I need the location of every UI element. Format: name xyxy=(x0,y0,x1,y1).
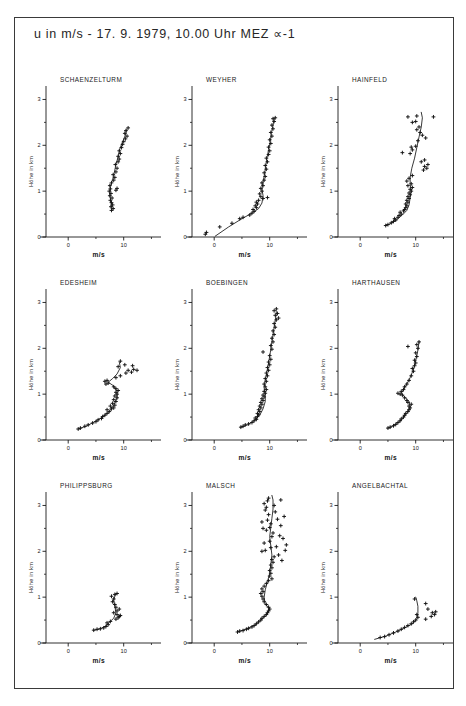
panel-philippsburg: 0123010PHILIPPSBURGHöhe in kmm/s xyxy=(16,480,162,680)
svg-text:1: 1 xyxy=(183,594,186,600)
svg-text:2: 2 xyxy=(37,345,40,351)
svg-text:10: 10 xyxy=(267,648,273,654)
y-axis-label: Höhe in km xyxy=(320,562,326,593)
x-axis-label: m/s xyxy=(385,657,398,664)
plot-area: 0123010 xyxy=(162,74,308,274)
data-points xyxy=(92,592,122,632)
y-axis-label: Höhe in km xyxy=(174,359,180,390)
svg-text:0: 0 xyxy=(329,234,332,240)
svg-text:0: 0 xyxy=(67,242,70,248)
profile-fit-line xyxy=(375,597,418,639)
panel-weyher: 0123010WEYHERHöhe in kmm/s xyxy=(162,74,308,274)
svg-text:3: 3 xyxy=(37,299,40,305)
svg-text:10: 10 xyxy=(121,445,127,451)
svg-text:10: 10 xyxy=(121,648,127,654)
plot-area: 0123010 xyxy=(308,480,454,680)
svg-text:10: 10 xyxy=(121,242,127,248)
svg-text:0: 0 xyxy=(329,640,332,646)
profile-fit-line xyxy=(238,495,274,632)
data-points xyxy=(76,359,139,431)
svg-text:1: 1 xyxy=(183,391,186,397)
y-axis-label: Höhe in km xyxy=(174,562,180,593)
data-points xyxy=(236,496,289,634)
svg-text:10: 10 xyxy=(413,242,419,248)
svg-text:10: 10 xyxy=(267,242,273,248)
svg-text:0: 0 xyxy=(213,445,216,451)
y-axis-label: Höhe in km xyxy=(28,562,34,593)
panel-grid: 0123010SCHAENZELTURMHöhe in kmm/s0123010… xyxy=(16,74,452,684)
y-axis-label: Höhe in km xyxy=(28,156,34,187)
svg-text:0: 0 xyxy=(37,437,40,443)
svg-text:0: 0 xyxy=(359,242,362,248)
panel-hainfeld: 0123010HAINFELDHöhe in kmm/s xyxy=(308,74,454,274)
svg-text:0: 0 xyxy=(37,640,40,646)
svg-text:3: 3 xyxy=(183,502,186,508)
x-axis-label: m/s xyxy=(93,454,106,461)
svg-text:10: 10 xyxy=(413,445,419,451)
svg-text:3: 3 xyxy=(37,96,40,102)
svg-text:10: 10 xyxy=(267,445,273,451)
svg-text:0: 0 xyxy=(359,445,362,451)
svg-text:2: 2 xyxy=(329,142,332,148)
panel-edesheim: 0123010EDESHEIMHöhe in kmm/s xyxy=(16,277,162,477)
panel-boebingen: 0123010BOEBINGENHöhe in kmm/s xyxy=(162,277,308,477)
x-axis-label: m/s xyxy=(385,251,398,258)
svg-text:2: 2 xyxy=(329,548,332,554)
panel-angelbachtal: 0123010ANGELBACHTALHöhe in kmm/s xyxy=(308,480,454,680)
figure-title: u in m/s - 17. 9. 1979, 10.00 Uhr MEZ ∝-… xyxy=(34,26,295,41)
plot-area: 0123010 xyxy=(16,277,162,477)
panel-title: BOEBINGEN xyxy=(206,279,248,286)
svg-text:0: 0 xyxy=(213,648,216,654)
y-axis-label: Höhe in km xyxy=(28,359,34,390)
svg-text:0: 0 xyxy=(183,437,186,443)
data-points xyxy=(384,114,436,227)
panel-title: WEYHER xyxy=(206,76,237,83)
data-points xyxy=(386,340,421,430)
x-axis-label: m/s xyxy=(93,251,106,258)
panel-malsch: 0123010MALSCHHöhe in kmm/s xyxy=(162,480,308,680)
panel-title: MALSCH xyxy=(206,482,235,489)
svg-text:0: 0 xyxy=(329,437,332,443)
svg-text:2: 2 xyxy=(183,548,186,554)
plot-area: 0123010 xyxy=(308,277,454,477)
data-points xyxy=(203,116,277,236)
svg-text:10: 10 xyxy=(413,648,419,654)
y-axis-label: Höhe in km xyxy=(320,156,326,187)
svg-text:3: 3 xyxy=(329,96,332,102)
svg-text:0: 0 xyxy=(37,234,40,240)
data-points xyxy=(378,597,437,639)
svg-text:2: 2 xyxy=(329,345,332,351)
svg-text:3: 3 xyxy=(37,502,40,508)
y-axis-label: Höhe in km xyxy=(174,156,180,187)
svg-text:3: 3 xyxy=(329,502,332,508)
panel-harthausen: 0123010HARTHAUSENHöhe in kmm/s xyxy=(308,277,454,477)
plot-area: 0123010 xyxy=(16,480,162,680)
plot-area: 0123010 xyxy=(162,277,308,477)
panel-title: HARTHAUSEN xyxy=(352,279,400,286)
svg-text:2: 2 xyxy=(183,142,186,148)
x-axis-label: m/s xyxy=(239,251,252,258)
panel-schaenzelturm: 0123010SCHAENZELTURMHöhe in kmm/s xyxy=(16,74,162,274)
svg-text:1: 1 xyxy=(183,188,186,194)
x-axis-label: m/s xyxy=(239,454,252,461)
svg-text:2: 2 xyxy=(37,142,40,148)
svg-text:0: 0 xyxy=(67,648,70,654)
plot-area: 0123010 xyxy=(16,74,162,274)
x-axis-label: m/s xyxy=(239,657,252,664)
svg-text:0: 0 xyxy=(67,445,70,451)
panel-title: HAINFELD xyxy=(352,76,387,83)
plot-area: 0123010 xyxy=(308,74,454,274)
panel-title: EDESHEIM xyxy=(60,279,97,286)
panel-title: PHILIPPSBURG xyxy=(60,482,113,489)
svg-text:1: 1 xyxy=(37,594,40,600)
svg-text:0: 0 xyxy=(359,648,362,654)
x-axis-label: m/s xyxy=(93,657,106,664)
svg-text:1: 1 xyxy=(329,188,332,194)
svg-text:0: 0 xyxy=(183,234,186,240)
svg-text:1: 1 xyxy=(329,391,332,397)
svg-text:1: 1 xyxy=(329,594,332,600)
y-axis-label: Höhe in km xyxy=(320,359,326,390)
svg-text:0: 0 xyxy=(183,640,186,646)
svg-text:1: 1 xyxy=(37,391,40,397)
svg-text:3: 3 xyxy=(183,299,186,305)
